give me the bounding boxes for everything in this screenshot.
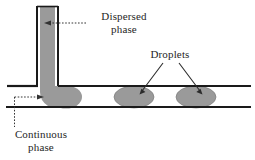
- dispersed-phase-column: [40, 7, 55, 87]
- droplet-right: [176, 86, 216, 108]
- dispersed-phase-label-line2: phase: [88, 23, 160, 36]
- dispersed-phase-label: Dispersed phase: [88, 10, 160, 35]
- continuous-phase-label-line2: phase: [2, 141, 80, 154]
- droplets-label-line1: Droplets: [137, 48, 203, 61]
- junction-fill: [49, 86, 67, 107]
- droplets-label: Droplets: [137, 48, 203, 61]
- dispersed-phase-label-line1: Dispersed: [88, 10, 160, 23]
- droplet-middle: [114, 86, 154, 108]
- continuous-phase-label: Continuous phase: [2, 128, 80, 153]
- continuous-phase-label-line1: Continuous: [2, 128, 80, 141]
